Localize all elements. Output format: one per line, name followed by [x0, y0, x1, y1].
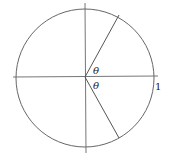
upper-radius-line: [85, 15, 119, 77]
lower-angle-label: θ: [93, 80, 99, 91]
lower-radius-line: [85, 77, 119, 138]
unit-circle-diagram: θ θ 1: [0, 0, 171, 156]
upper-angle-label: θ: [93, 65, 99, 76]
radius-label: 1: [155, 81, 161, 92]
